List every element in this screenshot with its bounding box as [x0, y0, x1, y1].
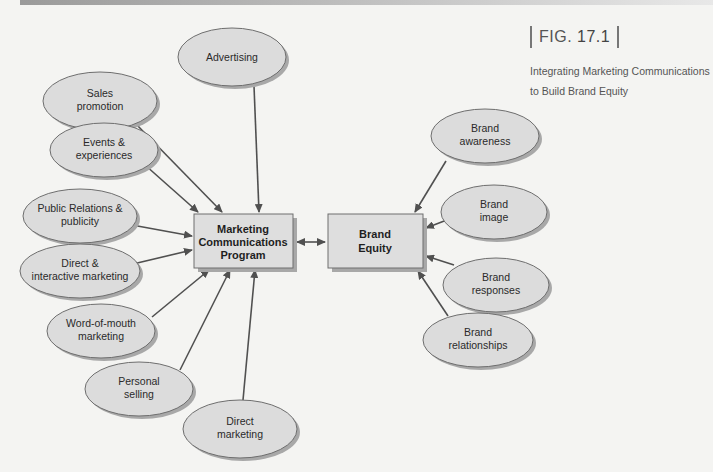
program-box: Marketing Communications Program [194, 214, 297, 272]
label-public-relations: Public Relations & [37, 202, 122, 214]
label-wom-marketing: marketing [78, 330, 124, 342]
equity-line1: Brand [359, 228, 391, 240]
program-line2: Communications [198, 236, 287, 248]
arrow-public-relations [132, 225, 192, 236]
input-ellipse-public-relations: Public Relations & publicity [23, 189, 140, 246]
label-events: Events & [83, 136, 125, 148]
arrow-personal-selling [180, 270, 230, 370]
label-experiences: experiences [76, 149, 133, 161]
arrow-advertising [254, 86, 259, 212]
label-personal: Personal [118, 375, 159, 387]
arrow-direct-interactive [133, 250, 192, 264]
arrow-awareness [415, 161, 446, 212]
input-ellipse-personal-selling: Personal selling [85, 362, 196, 419]
arrow-events [145, 165, 198, 212]
outcome-ellipse-awareness: Brand awareness [431, 109, 542, 166]
fig-bar-right [617, 26, 619, 48]
equity-line2: Equity [358, 242, 392, 254]
label-direct: Direct & [61, 257, 98, 269]
label-awareness: awareness [460, 135, 511, 147]
outcome-ellipse-image: Brand image [441, 185, 550, 242]
caption-line-2: to Build Brand Equity [530, 81, 710, 101]
input-ellipse-direct-interactive: Direct & interactive marketing [20, 244, 143, 301]
label-interactive-marketing: interactive marketing [32, 270, 129, 282]
label-marketing-dm: marketing [217, 428, 263, 440]
label-publicity: publicity [61, 215, 100, 227]
equity-box: Brand Equity [328, 214, 427, 272]
label-promotion: promotion [77, 100, 124, 112]
label-responses: responses [472, 284, 520, 296]
figure-tag: FIG. 17.1 [530, 25, 710, 49]
label-word-of-mouth: Word-of-mouth [66, 317, 136, 329]
figure-num: 17.1 [577, 28, 610, 45]
program-line1: Marketing [217, 223, 269, 235]
outcome-ellipse-responses: Brand responses [443, 258, 552, 315]
input-ellipse-advertising: Advertising [178, 28, 289, 89]
figure-prefix: FIG. [539, 28, 572, 45]
label-brand-2: Brand [480, 198, 508, 210]
arrow-direct-marketing [243, 270, 255, 400]
label-direct-dm: Direct [226, 415, 254, 427]
input-ellipse-events: Events & experiences [50, 123, 161, 180]
label-selling: selling [124, 388, 154, 400]
label-advertising: Advertising [206, 51, 258, 63]
input-ellipse-direct-marketing: Direct marketing [183, 400, 300, 461]
label-brand-4: Brand [464, 326, 492, 338]
figure-caption-block: FIG. 17.1 Integrating Marketing Communic… [530, 25, 710, 101]
arrow-responses [426, 256, 454, 265]
label-image: image [480, 211, 509, 223]
figure-number: FIG. 17.1 [532, 28, 617, 46]
arrow-word-of-mouth [152, 270, 209, 317]
input-ellipse-word-of-mouth: Word-of-mouth marketing [47, 304, 158, 361]
outcome-ellipse-relationships: Brand relationships [423, 313, 536, 370]
label-brand-3: Brand [482, 271, 510, 283]
arrow-relationships [418, 271, 448, 316]
program-line3: Program [220, 249, 265, 261]
label-brand-1: Brand [471, 122, 499, 134]
label-sales: Sales [87, 87, 113, 99]
caption-line-1: Integrating Marketing Communications [530, 61, 710, 81]
figure-caption: Integrating Marketing Communications to … [530, 61, 710, 101]
label-relationships: relationships [449, 339, 508, 351]
